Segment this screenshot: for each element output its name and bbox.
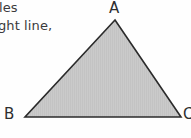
triangle-svg [0,0,191,138]
vertex-label-c: C [183,107,191,122]
triangle-figure [0,0,191,138]
vertex-label-b: B [4,107,14,122]
screenshot-canvas: les ght line, A B C [0,0,191,138]
vertex-label-a: A [109,1,119,16]
triangle-shape [25,20,181,117]
